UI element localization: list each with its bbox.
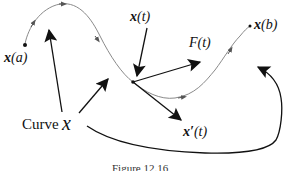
tangent-label: x′(t) (183, 125, 207, 139)
position-pointer-arrow (137, 28, 147, 76)
end-point-dot (249, 25, 252, 28)
curve-direction-arrow-1 (31, 22, 34, 27)
figure-12-16: x(a) x(t) x(b) F(t) x′(t) Curve x Figure… (0, 0, 290, 171)
curve-pointer-arrow-long (87, 67, 282, 153)
end-point-label: x(b) (254, 18, 277, 32)
curve-pointer-arrow-middle (79, 79, 108, 113)
curve-word-label: Curve (22, 117, 59, 132)
start-point-label: x(a) (4, 51, 27, 65)
tangent-vector-arrow (133, 82, 181, 120)
current-point-label: x(t) (130, 10, 150, 24)
force-vector-arrow (133, 62, 200, 82)
start-point-dot (23, 43, 27, 47)
curve-pointer-arrow-left (49, 30, 62, 112)
figure-caption: Figure 12.16 (112, 163, 168, 171)
curve-symbol-label: x (62, 113, 71, 133)
diagram-canvas (0, 0, 290, 171)
curve-direction-arrow-3 (95, 36, 98, 40)
force-label: F(t) (189, 36, 211, 50)
